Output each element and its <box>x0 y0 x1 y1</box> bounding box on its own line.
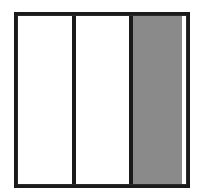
panel-group <box>14 12 190 188</box>
figure-canvas <box>0 0 204 194</box>
panel-2[interactable] <box>72 16 129 184</box>
panel-3-shaded[interactable] <box>129 16 182 184</box>
panel-1[interactable] <box>18 16 72 184</box>
